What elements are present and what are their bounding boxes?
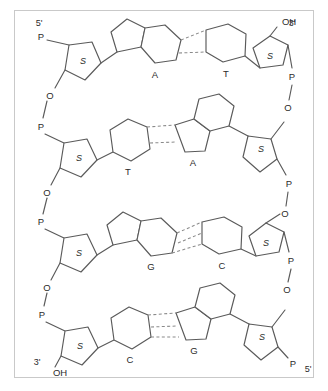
base-label-right-3: C	[219, 260, 226, 271]
bond-sugar-p-right-1	[288, 45, 292, 68]
base-label-left-2: T	[125, 166, 131, 177]
pyrimidine-ring-left-2	[110, 119, 150, 161]
sugar-label-right-2: S	[258, 144, 264, 154]
oxygen-label-left-3: O	[43, 282, 50, 293]
phosphate-label-right-4: P	[288, 255, 294, 266]
bond-p-o-right-1-2	[289, 85, 292, 100]
bond-o-p-left-1-2	[43, 101, 47, 118]
purine-imidazole-left-3	[107, 212, 141, 245]
dna-structure-figure: S P O A T S OH P 5' 3' P O	[0, 0, 328, 391]
oxygen-label-left-2: O	[43, 187, 50, 198]
bond-base-sugar-right-4	[230, 314, 249, 324]
sugar-label-left-3: S	[76, 248, 82, 258]
bond-sugar-o-left-1	[55, 70, 65, 88]
base-pair-row-4: S OH C G S P	[46, 283, 296, 378]
base-pair-row-3: S O G C S P	[43, 212, 294, 293]
hydrogen-bond-2-row-1	[179, 52, 206, 53]
sugar-label-left-4: S	[77, 341, 83, 351]
pyrimidine-ring-right-3	[202, 217, 242, 254]
oxygen-label-right-2: O	[284, 102, 291, 113]
bond-sugar-p-right-3	[284, 232, 289, 252]
terminus-label-left-top: 5'	[36, 18, 43, 28]
bond-sugar-base-left-2	[97, 152, 113, 160]
phosphate-label-right-5: P	[290, 358, 296, 369]
phosphate-label-right-3: P	[286, 178, 292, 189]
bond-sugar-o-right-4	[272, 310, 285, 327]
bond-p-sugar-left-3	[45, 229, 64, 238]
bond-p-sugar-left-1	[47, 40, 69, 45]
bond-o-p-left-3-4	[44, 293, 47, 306]
purine-imidazole-left-1	[111, 19, 145, 52]
bond-sugar-p-right-4	[278, 347, 288, 358]
phosphate-label-left-4: P	[39, 309, 45, 320]
purine-pyrimidine-left-1	[141, 25, 181, 63]
hydrogen-bond-3-row-3	[172, 244, 202, 253]
bond-sugar-o-right-3	[266, 214, 280, 223]
base-label-left-1: A	[152, 69, 159, 80]
bond-sugar-base-left-1	[101, 52, 117, 63]
base-pair-row-2: S O T A S P	[43, 94, 292, 198]
base-label-left-4: C	[127, 354, 134, 365]
sugar-label-left-1: S	[80, 56, 86, 66]
oxygen-label-left-1: O	[46, 90, 53, 101]
purine-pyrimidine-left-3	[137, 218, 177, 256]
hydrogen-bond-1-row-2	[147, 125, 175, 127]
sugar-label-right-3: S	[263, 238, 269, 248]
hydrogen-bond-1-row-1	[181, 30, 206, 40]
bond-sugar-o-right-2	[271, 122, 284, 139]
sugar-label-left-2: S	[76, 153, 82, 163]
hydroxyl-label-left-4: OH	[53, 367, 67, 378]
base-label-right-1: T	[223, 68, 229, 79]
hydrogen-bond-2-row-2	[150, 142, 176, 143]
hydrogen-bond-1-row-3	[177, 222, 202, 233]
base-label-right-4: G	[190, 345, 197, 356]
bond-sugar-oh-right-1	[270, 27, 277, 36]
bond-p-o-right-3-4	[288, 269, 291, 282]
hydrogen-bond-1-row-4	[148, 313, 176, 315]
bond-p-o-right-2-3	[286, 192, 288, 206]
terminus-label-right-top: 3'	[289, 18, 296, 28]
bond-p-sugar-left-4	[46, 322, 65, 331]
hydrogen-bond-2-row-3	[178, 233, 202, 243]
pyrimidine-ring-left-4	[111, 307, 151, 349]
base-label-right-2: A	[190, 157, 197, 168]
bond-sugar-base-left-4	[98, 340, 114, 348]
pyrimidine-ring-right-1	[206, 24, 246, 62]
bond-sugar-o-left-3	[51, 263, 60, 280]
bond-sugar-p-right-2	[277, 159, 286, 175]
phosphate-label-right-1: P	[289, 71, 295, 82]
base-pair-row-1: S P O A T S OH P	[38, 16, 296, 101]
base-label-left-3: G	[147, 261, 154, 272]
sugar-label-right-4: S	[259, 332, 265, 342]
bond-sugar-oh-left-4	[55, 356, 61, 367]
phosphate-label-left-3: P	[38, 216, 44, 227]
bond-p-sugar-left-2	[45, 134, 64, 143]
phosphate-label-left-1: P	[38, 31, 44, 42]
terminus-label-right-bottom: 5'	[305, 364, 312, 374]
bond-base-sugar-right-2	[229, 126, 248, 136]
oxygen-label-right-4: O	[283, 284, 290, 295]
sugar-label-right-1: S	[267, 51, 273, 61]
oxygen-label-right-3: O	[281, 208, 288, 219]
bond-sugar-base-left-3	[97, 245, 113, 255]
hydrogen-bond-2-row-4	[151, 326, 177, 327]
terminus-label-left-bottom: 3'	[34, 357, 41, 367]
phosphate-label-left-2: P	[38, 121, 44, 132]
bond-sugar-o-left-2	[51, 168, 60, 185]
bond-o-p-left-2-3	[43, 198, 47, 214]
dna-diagram-canvas: S P O A T S OH P 5' 3' P O	[0, 0, 328, 391]
